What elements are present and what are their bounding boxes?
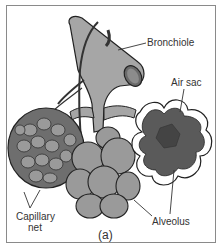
label-alveolus: Alveolus xyxy=(152,216,190,227)
label-capillary-line2: net xyxy=(16,222,54,233)
label-capillary-net: Capillary net xyxy=(16,211,54,233)
figure-caption: (a) xyxy=(98,230,113,241)
label-air-sac: Air sac xyxy=(171,77,202,88)
label-capillary-line1: Capillary xyxy=(16,211,54,222)
label-bronchiole: Bronchiole xyxy=(147,37,194,48)
alveolus-cross-section xyxy=(132,100,212,185)
